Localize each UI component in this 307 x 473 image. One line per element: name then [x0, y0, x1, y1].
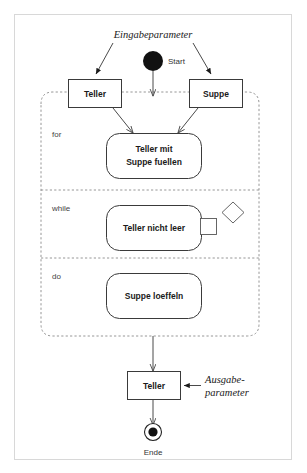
end-node-core	[148, 427, 157, 436]
region-label-for: for	[52, 130, 62, 139]
end-label: Ende	[144, 448, 163, 457]
action-node-spoon-label: Suppe loeffeln	[125, 291, 184, 301]
region-label-do: do	[52, 272, 61, 281]
input-parameter-label: Eingabeparameter	[113, 29, 194, 40]
action-node-fill-label-line2: Suppe fuellen	[126, 157, 182, 167]
action-node-test-label: Teller nicht leer	[123, 223, 186, 233]
activity-diagram: for while do Eingabeparameter Start Tell…	[0, 0, 307, 473]
diagram-canvas: for while do Eingabeparameter Start Tell…	[0, 0, 307, 473]
action-node-fill	[107, 134, 202, 179]
object-node-teller-in-label: Teller	[84, 89, 107, 99]
object-node-suppe-in-label: Suppe	[203, 89, 229, 99]
start-label: Start	[168, 57, 186, 66]
action-node-fill-label-line1: Teller mit	[135, 144, 172, 154]
region-label-while: while	[51, 204, 71, 213]
output-parameter-label-line2: parameter	[204, 387, 250, 398]
output-pin-square	[201, 219, 217, 235]
output-parameter-label-line1: Ausgabe-	[204, 374, 245, 385]
object-node-teller-out-label: Teller	[143, 381, 166, 391]
start-node	[143, 51, 163, 71]
